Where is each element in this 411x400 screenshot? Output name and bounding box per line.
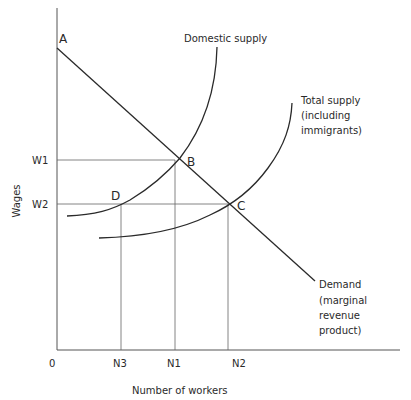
point-d-label: D [111,189,120,203]
total-supply-label-line-3: immigrants) [301,125,362,136]
demand-label-line-2: (marginal [319,295,367,306]
domestic-supply-label: Domestic supply [184,33,267,44]
y-axis-title: Wages [11,184,22,217]
x-tick-n1: N1 [167,358,181,369]
total-supply-curve [99,103,292,238]
origin-label: 0 [49,358,55,369]
y-tick-w2: W2 [32,199,48,210]
total-supply-label-line-2: (including [301,110,350,121]
point-c-label: C [237,199,245,213]
point-a-label: A [59,32,68,46]
point-b-label: B [187,155,195,169]
demand-label-line-3: revenue [319,310,360,321]
total-supply-label-line-1: Total supply [300,95,361,106]
demand-label-line-1: Demand [319,279,361,290]
x-tick-n2: N2 [232,358,246,369]
demand-label-line-4: product) [319,325,361,336]
demand-curve [57,48,315,281]
y-tick-w1: W1 [32,155,48,166]
x-tick-n3: N3 [113,358,127,369]
x-axis-title: Number of workers [132,385,227,396]
domestic-supply-curve [67,47,217,216]
labour-market-diagram: A B C D W1 W2 0 N3 N1 N2 Wages Number of… [0,0,411,400]
